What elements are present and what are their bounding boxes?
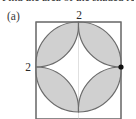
edge-marker-dot [118,64,123,69]
figure-screenshot: Find the area of the shaded region. (a) … [0,0,136,119]
quatrefoil-figure [0,0,136,119]
